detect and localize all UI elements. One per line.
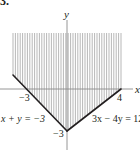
tick-label-y-neg3: −3	[53, 128, 64, 139]
y-axis-label: y	[63, 8, 69, 20]
problem-number: 33.	[0, 0, 9, 8]
x-axis-label: x	[134, 83, 140, 95]
tick-label-x-neg3: −3	[19, 92, 30, 103]
inequality-graph: 33. x y −3 4 −3 x + y = −3 3x − 4y = 12	[0, 0, 140, 150]
annotation-right-line: 3x − 4y = 12	[92, 113, 140, 124]
annotation-left-line: x + y = −3	[0, 113, 45, 124]
tick-label-x-4: 4	[117, 92, 122, 103]
